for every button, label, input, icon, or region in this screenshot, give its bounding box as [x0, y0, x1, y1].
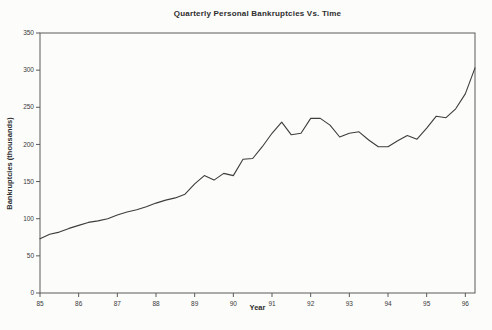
- data-line: [40, 68, 475, 239]
- y-tick-label: 300: [23, 66, 34, 73]
- y-tick-label: 150: [23, 178, 34, 185]
- y-tick-label: 0: [30, 289, 34, 296]
- y-tick-label: 250: [23, 103, 34, 110]
- bankruptcies-chart: Quarterly Personal Bankruptcies Vs. Time…: [0, 0, 492, 330]
- y-tick-label: 350: [23, 29, 34, 36]
- y-tick-label: 100: [23, 215, 34, 222]
- y-tick-label: 50: [27, 252, 35, 259]
- plot-area: 0501001502002503003508586878889909192939…: [0, 0, 492, 330]
- plot-border: [40, 33, 475, 293]
- y-tick-label: 200: [23, 141, 34, 148]
- x-axis-label: Year: [40, 303, 475, 312]
